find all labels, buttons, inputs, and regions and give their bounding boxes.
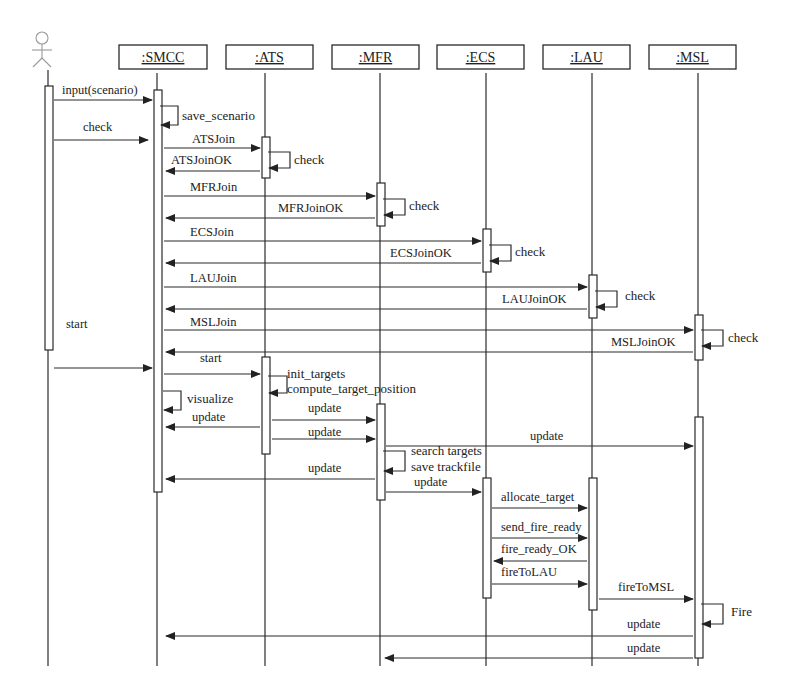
self-calls — [160, 106, 723, 624]
message-label: update — [308, 425, 342, 439]
message-label: ATSJoin — [192, 132, 236, 146]
self-call-label: check — [728, 330, 759, 345]
message-label: ECSJoinOK — [390, 246, 452, 260]
self-call-search-targets — [383, 451, 405, 471]
message-label: ECSJoin — [190, 225, 235, 239]
self-call-label: Fire — [731, 604, 752, 619]
self-call-label: visualize — [187, 391, 233, 406]
object-ats: :ATS — [226, 45, 313, 69]
activation-bar-lau — [589, 478, 597, 610]
activation-bar-ats — [262, 357, 270, 454]
self-call-check — [595, 291, 617, 307]
self-call-label: check — [409, 198, 440, 213]
self-call-check — [383, 199, 405, 215]
message-label: update — [627, 617, 661, 631]
self-call-label: init_targets — [287, 366, 345, 381]
self-call-visualize — [163, 391, 181, 410]
object-msl: :MSL — [649, 45, 736, 69]
object-label: :MFR — [359, 50, 393, 65]
activation-bar-actor — [45, 86, 53, 350]
object-lau: :LAU — [543, 45, 630, 69]
self-call-save-scenario — [160, 106, 178, 125]
object-headers: :SMCC:ATS:MFR:ECS:LAU:MSL — [119, 45, 736, 69]
object-label: :SMCC — [142, 50, 185, 65]
sequence-diagram: :SMCC:ATS:MFR:ECS:LAU:MSL input(scenario… — [0, 0, 804, 698]
message-label: input(scenario) — [62, 83, 138, 97]
message-label: fire_ready_OK — [501, 542, 577, 556]
activation-bar-smcc — [154, 90, 162, 492]
activation-bar-mfr — [377, 404, 385, 500]
self-call-check — [701, 330, 723, 346]
object-label: :MSL — [676, 50, 709, 65]
message-label: update — [308, 401, 342, 415]
self-call-label: save trackfile — [411, 459, 481, 474]
self-call-label: check — [294, 152, 325, 167]
activation-bar-ats — [262, 137, 270, 178]
message-labels: input(scenario)checkATSJoinATSJoinOKMFRJ… — [62, 83, 759, 655]
message-label: update — [530, 429, 564, 443]
message-label: update — [308, 461, 342, 475]
message-label: start — [200, 351, 222, 365]
message-label: fireToLAU — [501, 565, 557, 579]
object-label: :ATS — [255, 50, 284, 65]
message-label: allocate_target — [501, 490, 575, 504]
message-label: MFRJoinOK — [278, 201, 343, 215]
self-call-check — [489, 245, 511, 261]
message-label: check — [83, 120, 113, 134]
activation-bar-msl — [695, 417, 703, 658]
message-label: update — [414, 475, 448, 489]
object-ecs: :ECS — [437, 45, 524, 69]
message-label: LAUJoin — [190, 271, 237, 285]
actor-icon — [32, 32, 52, 67]
self-call-init-targets — [268, 376, 287, 393]
object-label: :LAU — [570, 50, 603, 65]
activation-bars — [45, 86, 703, 658]
self-call-label: search targets — [411, 443, 482, 458]
message-label: update — [627, 641, 661, 655]
message-label: MFRJoin — [190, 180, 238, 194]
message-label: ATSJoinOK — [171, 153, 232, 167]
message-label: start — [66, 317, 88, 331]
activation-bar-ecs — [483, 229, 491, 272]
message-label: LAUJoinOK — [502, 292, 567, 306]
message-label: MSLJoinOK — [611, 335, 676, 349]
activation-bar-lau — [589, 275, 597, 318]
activation-bar-ecs — [483, 478, 491, 598]
object-label: :ECS — [466, 50, 496, 65]
message-label: send_fire_ready — [501, 520, 582, 534]
message-label: fireToMSL — [618, 580, 674, 594]
message-label: MSLJoin — [190, 315, 237, 329]
self-call-label: save_scenario — [182, 108, 255, 123]
self-call-fire — [701, 604, 723, 624]
message-label: update — [192, 410, 226, 424]
self-call-label: compute_target_position — [287, 381, 417, 396]
object-mfr: :MFR — [332, 45, 419, 69]
activation-bar-msl — [695, 315, 703, 360]
self-call-check — [268, 152, 290, 168]
self-call-label: check — [515, 244, 546, 259]
self-call-label: check — [625, 288, 656, 303]
activation-bar-mfr — [377, 183, 385, 226]
object-smcc: :SMCC — [119, 45, 207, 69]
